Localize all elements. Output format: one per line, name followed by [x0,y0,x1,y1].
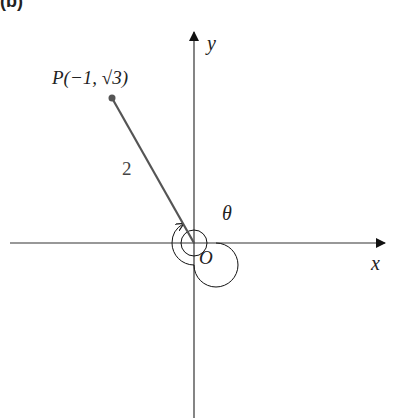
point-p-label: P(−1, √3) [51,67,128,89]
x-axis-label: x [370,252,380,274]
polar-diagram: P(−1, √3) 2 θ O y x [0,0,400,418]
theta-label: θ [222,202,232,224]
segment-length-label: 2 [122,158,132,179]
point-p [109,95,116,102]
origin-label: O [199,247,213,268]
y-axis-label: y [205,32,216,55]
